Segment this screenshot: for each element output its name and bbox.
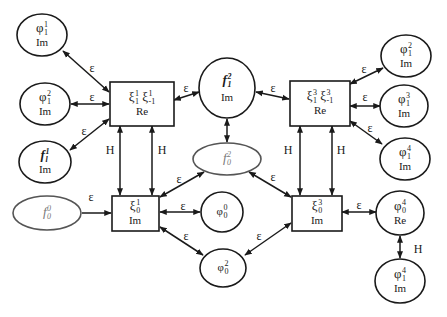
edge-label-epsilon: ε [89, 61, 94, 76]
edge-label-epsilon: ε [88, 190, 93, 205]
edge-label-H: H [106, 143, 115, 158]
node-xi3-box-re-label: ξ31 ξ3-1 Re [307, 89, 334, 116]
node-phi13-im-label: φ31 Im [398, 92, 410, 119]
node-xi03-box-im-label: ξ30 Im [311, 199, 323, 226]
node-phi11-im-label: φ11 Im [36, 21, 48, 48]
edge-label-epsilon: ε [356, 198, 361, 213]
edge-label-epsilon: ε [256, 229, 261, 244]
node-f02-label: f20 [223, 151, 231, 167]
node-phi02-label: φ20 [218, 260, 229, 275]
node-phi14-im-lower-label: φ41 Im [394, 267, 406, 294]
node-f12-im-label: f21 Im [221, 73, 233, 103]
edge-label-epsilon: ε [183, 229, 188, 244]
edge-label-epsilon: ε [270, 81, 275, 96]
edge-label-epsilon: ε [270, 170, 275, 185]
node-phi14-im-upper-label: φ41 Im [399, 145, 411, 172]
edge-label-epsilon: ε [183, 81, 188, 96]
node-f00-label: f00 [43, 205, 51, 221]
edge-xi01-phi02 [160, 227, 203, 255]
edge-label-epsilon: ε [89, 90, 94, 105]
edge-label-H: H [158, 143, 167, 158]
edge-label-epsilon: ε [180, 199, 185, 214]
edge-label-epsilon: ε [81, 124, 86, 139]
edge-xi3-phi14u [350, 121, 382, 144]
node-phi00-label: φ00 [217, 204, 228, 219]
node-phi12-im-left-label: φ21 Im [39, 90, 51, 117]
node-f1-im-label: f1l Im [39, 148, 51, 175]
node-phi04-re-label: φ40 Re [394, 199, 406, 226]
edge-label-epsilon: ε [176, 172, 181, 187]
node-xi01-box-im-label: ξ10 Im [129, 199, 141, 226]
edge-label-epsilon: ε [367, 121, 372, 136]
edge-phi02-xi03 [245, 223, 291, 255]
edge-xi1-phi11 [63, 51, 109, 92]
edge-xi1-f1 [70, 119, 109, 150]
edge-label-H: H [284, 143, 293, 158]
edge-label-H: H [414, 242, 423, 257]
node-phi12-im-right-label: φ21 Im [400, 42, 412, 69]
node-xi1-box-re-label: ξ11 ξ1-1 Re [129, 90, 156, 117]
edge-xi01-f02 [160, 172, 204, 197]
edge-label-epsilon: ε [362, 90, 367, 105]
edge-label-epsilon: ε [361, 62, 366, 77]
edge-label-H: H [337, 143, 346, 158]
